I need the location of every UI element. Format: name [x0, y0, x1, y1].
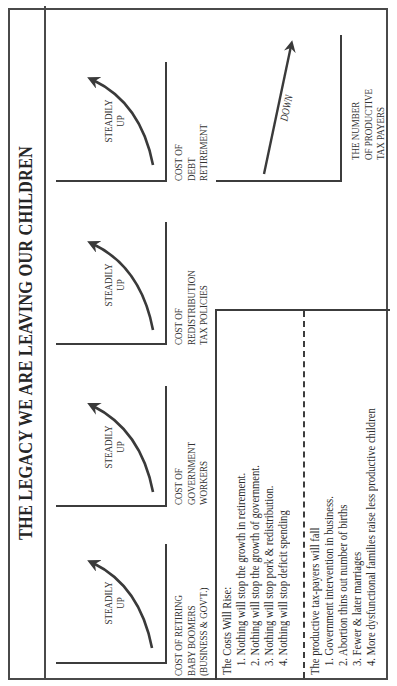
chart-4-label: COST OF DEBT RETIREMENT	[172, 111, 210, 181]
costs-item: 1. Nothing will stop the growth in retir…	[234, 465, 248, 675]
chart-2-label: COST OF GOVERNMENT WORKERS	[172, 428, 210, 505]
chart-1-trend: STEADILY UP	[102, 573, 126, 633]
dashed-divider	[303, 311, 305, 678]
taxpayers-heading: The productive tax-payers will fall	[308, 408, 322, 675]
taxpayers-item: 1. Government intervention in business.	[322, 408, 336, 675]
chart-4-trend: STEADILY UP	[102, 91, 126, 151]
costs-item: 3. Nothing will stop pork & redistributi…	[262, 465, 276, 675]
chart-5-label: THE NUMBER OF PRODUCTIVE TAX PAYERS	[349, 74, 387, 160]
costs-heading: The Costs Will Rise:	[220, 465, 234, 675]
taxpayers-item: 3. Fewer & later marriages	[350, 408, 364, 675]
taxpayers-block: The productive tax-payers will fall 1. G…	[308, 408, 378, 675]
legacy-diagram-page: THE LEGACY WE ARE LEAVING OUR CHILDREN	[0, 0, 397, 686]
taxpayers-item: 2. Abortion thins out number of births	[336, 408, 350, 675]
chart-2-trend: STEADILY UP	[102, 417, 126, 477]
costs-item: 4. Nothing will stop deficit spending	[276, 465, 290, 675]
chart-3-trend: STEADILY UP	[102, 255, 126, 315]
costs-item: 2. Nothing will stop the growth of gover…	[248, 465, 262, 675]
chart-3-label: COST OF REDISTRIBUTION TAX POLICIES	[172, 254, 210, 345]
taxpayers-item: 4. More dysfunctional families raise les…	[364, 408, 378, 675]
chart-1-label: COST OF RETIRING BABY BOOMERS (BUSINESS …	[172, 568, 210, 676]
costs-block: The Costs Will Rise: 1. Nothing will sto…	[220, 465, 290, 675]
